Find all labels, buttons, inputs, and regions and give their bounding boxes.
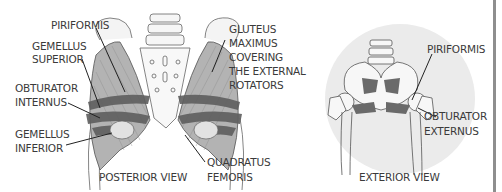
label-piriformis-exterior: PIRIFORMIS	[427, 43, 485, 56]
caption-exterior-view: EXTERIOR VIEW	[359, 171, 440, 184]
label-gluteus-line2: MAXIMUS	[229, 37, 278, 50]
label-quadratus-line2: FEMORIS	[207, 171, 253, 184]
label-gluteus-line5: ROTATORS	[229, 79, 284, 92]
label-obturator-externus-line2: EXTERNUS	[424, 125, 479, 138]
label-gemellus-inferior-line2: INFERIOR	[15, 142, 63, 155]
label-gluteus-line3: COVERING	[229, 51, 283, 64]
label-obturator-internus-line2: INTERNUS	[15, 96, 67, 109]
label-quadratus-line1: QUADRATUS	[207, 156, 270, 169]
label-gluteus-line4: THE EXTERNAL	[229, 65, 306, 78]
label-gemellus-superior-line1: GEMELLUS	[32, 40, 86, 53]
label-obturator-internus-line1: OBTURATOR	[15, 82, 78, 95]
label-piriformis-posterior: PIRIFORMIS	[51, 19, 109, 32]
label-gemellus-superior-line2: SUPERIOR	[32, 53, 84, 66]
label-gluteus-line1: GLUTEUS	[229, 23, 276, 36]
anatomy-diagram: PIRIFORMIS GEMELLUS SUPERIOR OBTURATOR I…	[0, 0, 502, 192]
right-edge-divider	[493, 0, 496, 192]
caption-posterior-view: POSTERIOR VIEW	[99, 171, 187, 184]
label-gemellus-inferior-line1: GEMELLUS	[15, 128, 69, 141]
label-obturator-externus-line1: OBTURATOR	[424, 110, 487, 123]
